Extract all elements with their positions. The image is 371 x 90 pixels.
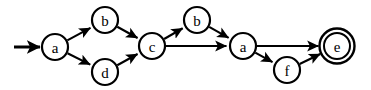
edge-a-to-d (68, 53, 91, 64)
node-a-1[interactable]: a (42, 34, 68, 60)
node-label: b (193, 13, 201, 29)
edge-d-to-c (117, 54, 137, 65)
node-a-6[interactable]: a (230, 33, 256, 59)
edge-b-to-c (117, 27, 137, 38)
edge-a-to-f (255, 53, 272, 62)
node-label: a (240, 39, 247, 55)
node-label: b (101, 13, 109, 29)
node-d-3[interactable]: d (92, 59, 118, 85)
node-label: e (334, 39, 341, 55)
state-diagram: abdcbafe (0, 0, 371, 90)
edge-a-to-b (67, 28, 90, 41)
node-label: d (101, 65, 109, 81)
node-b-5[interactable]: b (184, 7, 210, 33)
node-e-8[interactable]: e (320, 29, 355, 64)
node-label: f (285, 63, 290, 79)
edge-b-to-a (209, 27, 228, 38)
node-label: a (52, 40, 59, 56)
diagram-canvas: abdcbafe (0, 0, 371, 90)
edge-f-to-e (300, 54, 321, 64)
edge-c-to-b (164, 28, 183, 39)
node-label: c (149, 39, 156, 55)
node-f-7[interactable]: f (274, 57, 300, 83)
node-c-4[interactable]: c (139, 33, 165, 59)
node-b-2[interactable]: b (92, 7, 118, 33)
